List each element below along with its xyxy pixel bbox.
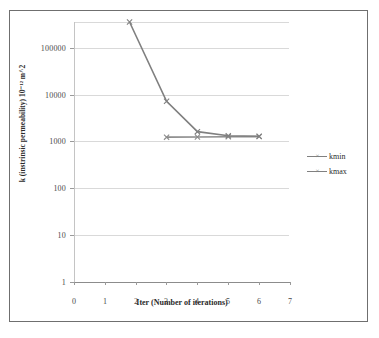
data-series-layer bbox=[74, 22, 290, 283]
legend-label-kmax: kmax bbox=[327, 167, 347, 176]
chart-figure: 100000 10000 1000 100 10 1 0 1 2 3 4 5 6… bbox=[0, 0, 379, 338]
legend-marker-kmin-icon: × bbox=[307, 152, 327, 161]
y-tick-label-10: 10 bbox=[14, 231, 66, 240]
y-axis-title: k (instrinsic permeability) 10⁻¹² m^2 bbox=[18, 49, 27, 199]
legend-marker-kmax-icon: × bbox=[307, 167, 327, 176]
chart-legend: × kmin × kmax bbox=[307, 149, 363, 179]
series-kmax bbox=[127, 19, 262, 138]
x-axis-title: Iter (Number of iterations) bbox=[74, 298, 290, 307]
legend-item-kmin[interactable]: × kmin bbox=[307, 149, 363, 164]
legend-item-kmax[interactable]: × kmax bbox=[307, 164, 363, 179]
x-tick-mark-7 bbox=[290, 282, 291, 285]
legend-label-kmin: kmin bbox=[327, 152, 345, 161]
series-line-kmax bbox=[130, 22, 260, 136]
chart-card: 100000 10000 1000 100 10 1 0 1 2 3 4 5 6… bbox=[9, 10, 368, 322]
y-tick-label-1: 1 bbox=[14, 278, 66, 287]
series-kmin bbox=[164, 134, 262, 140]
